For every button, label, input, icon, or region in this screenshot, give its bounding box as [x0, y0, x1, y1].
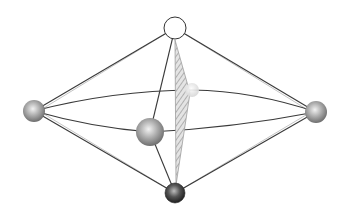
atom-left-icon — [23, 100, 45, 122]
atom-top-icon — [164, 17, 186, 39]
edge-left-back — [34, 90, 192, 111]
edge-shadow — [175, 28, 316, 115]
atom-front-icon — [136, 118, 164, 146]
atom-right-icon — [305, 101, 327, 123]
hatched-plane-polygon — [175, 40, 190, 185]
edge-top-right — [175, 28, 316, 112]
edge-top-left — [34, 28, 175, 111]
atom-bottom-icon — [165, 183, 185, 203]
atom-back-icon — [185, 83, 199, 97]
edge-front-right — [150, 112, 316, 132]
edge-bottom-right — [175, 112, 316, 193]
hatched-plane — [175, 40, 190, 185]
edge-shadow — [175, 109, 316, 193]
edge-shadow — [34, 28, 175, 114]
edge-top-front — [150, 28, 175, 132]
molecule-diagram — [0, 0, 348, 223]
octahedral-geometry-figure — [0, 0, 348, 223]
